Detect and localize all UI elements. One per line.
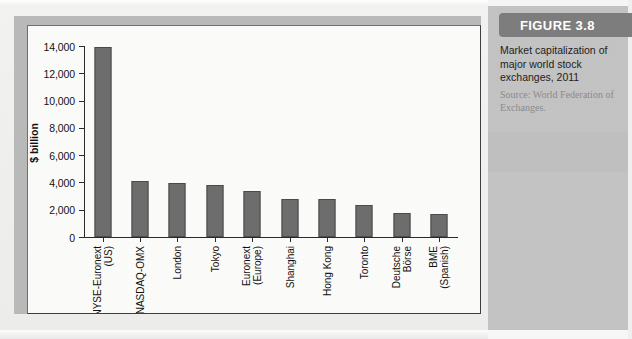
- figure-number-banner: FIGURE 3.8: [499, 13, 632, 37]
- x-axis-category-label: DeutscheBörse: [391, 246, 413, 288]
- figure-source-note: Source: World Federation of Exchanges.: [500, 88, 632, 114]
- figure-caption: Market capitalization of major world sto…: [500, 44, 628, 85]
- x-axis-category-label: Shanghai: [284, 246, 295, 288]
- bar[interactable]: [132, 181, 149, 237]
- x-axis-category-label-line: (Europe): [252, 246, 263, 286]
- sidebar-shading-band: [488, 132, 628, 172]
- x-axis-tick: [290, 237, 291, 242]
- y-axis-tick-label: 10,000: [43, 95, 75, 107]
- y-axis-tick-label: 6,000: [49, 150, 75, 162]
- x-axis-category-label: London: [172, 246, 183, 279]
- x-axis-tick: [364, 237, 365, 242]
- chart-canvas: $ billion 14,00012,00010,0008,0006,0004,…: [27, 25, 481, 314]
- x-axis-category-label-line: BME: [428, 246, 439, 289]
- y-axis-tick-label: 0: [69, 232, 75, 244]
- bar-slot: London: [159, 46, 196, 237]
- x-axis-category-label: Euronext(Europe): [241, 246, 263, 286]
- y-axis-tick-label: 14,000: [43, 41, 75, 53]
- y-axis-tick-label: 8,000: [49, 122, 75, 134]
- x-axis-tick: [140, 237, 141, 242]
- bar-series: NYSE-Euronext(US)NASDAQ-OMXLondonTokyoEu…: [84, 47, 458, 238]
- bar[interactable]: [281, 199, 298, 237]
- y-axis-tick-label: 12,000: [43, 68, 75, 80]
- bar[interactable]: [94, 47, 111, 237]
- figure-number-label: FIGURE 3.8: [520, 18, 595, 33]
- bar-slot: Euronext(Europe): [234, 46, 271, 237]
- x-axis-category-label-line: Börse: [402, 246, 413, 288]
- x-axis-category-label-line: NYSE-Euronext: [92, 246, 103, 314]
- x-axis-tick: [439, 237, 440, 242]
- x-axis-category-label: Toronto: [359, 246, 370, 279]
- x-axis-category-label: NASDAQ-OMX: [135, 246, 146, 314]
- bar[interactable]: [319, 199, 336, 237]
- x-axis-category-label-line: Toronto: [359, 246, 370, 279]
- x-axis-category-label-line: Euronext: [241, 246, 252, 286]
- bar-slot: NYSE-Euronext(US): [84, 46, 121, 237]
- y-axis-title: $ billion: [28, 123, 40, 163]
- x-axis-tick: [215, 237, 216, 242]
- bar-slot: BME(Spanish): [421, 46, 458, 237]
- x-axis-tick: [177, 237, 178, 242]
- bar[interactable]: [244, 191, 261, 237]
- bar-slot: DeutscheBörse: [383, 46, 420, 237]
- sidebar-bottom-edge: [488, 330, 628, 339]
- bar[interactable]: [431, 214, 448, 237]
- y-axis-tick-label: 4,000: [49, 177, 75, 189]
- x-axis-tick: [327, 237, 328, 242]
- x-axis-category-label-line: (US): [103, 246, 114, 314]
- bar[interactable]: [356, 205, 373, 237]
- figure-sidebar: FIGURE 3.8 Market capitalization of majo…: [488, 0, 628, 339]
- bar-slot: Shanghai: [271, 46, 308, 237]
- bar-slot: NASDAQ-OMX: [121, 46, 158, 237]
- x-axis-category-label: BME(Spanish): [428, 246, 450, 289]
- x-axis-tick: [402, 237, 403, 242]
- x-axis-category-label-line: London: [172, 246, 183, 279]
- x-axis-category-label: NYSE-Euronext(US): [92, 246, 114, 314]
- bar[interactable]: [206, 185, 223, 237]
- x-axis-tick: [252, 237, 253, 242]
- x-axis-category-label-line: NASDAQ-OMX: [135, 246, 146, 314]
- x-axis-tick: [103, 237, 104, 242]
- bar-slot: Hong Kong: [308, 46, 345, 237]
- x-axis-category-label-line: Deutsche: [391, 246, 402, 288]
- x-axis-category-label-line: Tokyo: [209, 246, 220, 272]
- bar-slot: Tokyo: [196, 46, 233, 237]
- y-axis-tick-label: 2,000: [49, 204, 75, 216]
- bar[interactable]: [393, 213, 410, 237]
- x-axis-category-label-line: Shanghai: [284, 246, 295, 288]
- x-axis-category-label: Hong Kong: [322, 246, 333, 296]
- x-axis-category-label: Tokyo: [209, 246, 220, 272]
- bar[interactable]: [169, 183, 186, 237]
- figure-frame: $ billion 14,00012,00010,0008,0006,0004,…: [14, 16, 481, 314]
- x-axis-category-label-line: Hong Kong: [322, 246, 333, 296]
- x-axis-category-label-line: (Spanish): [439, 246, 450, 289]
- bar-slot: Toronto: [346, 46, 383, 237]
- plot-area: $ billion 14,00012,00010,0008,0006,0004,…: [84, 47, 458, 238]
- sidebar-top-edge: [488, 0, 628, 6]
